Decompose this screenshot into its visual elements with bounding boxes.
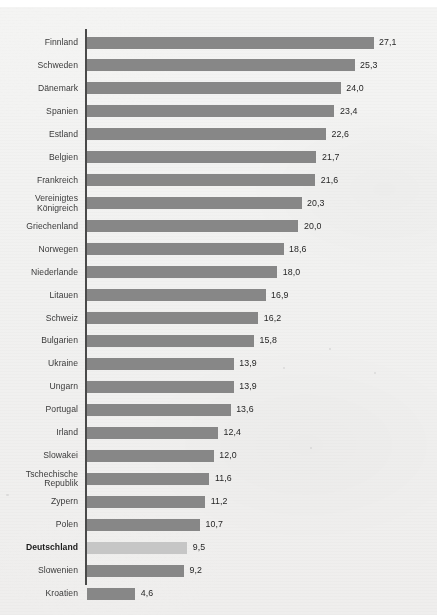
category-label: Slowakei: [0, 451, 78, 461]
category-label-line: Griechenland: [0, 222, 78, 232]
bar-value-label: 12,0: [219, 451, 237, 461]
category-label: Schweden: [0, 61, 78, 71]
bar: [87, 450, 214, 462]
category-label: Irland: [0, 428, 78, 438]
bar: [87, 59, 355, 71]
bar-value-label: 15,8: [259, 336, 277, 346]
bar-value-label: 13,6: [236, 405, 254, 415]
category-label: Litauen: [0, 291, 78, 301]
bar: [87, 588, 136, 600]
category-label-line: Zypern: [0, 497, 78, 507]
category-label-line: Deutschland: [0, 543, 78, 553]
category-label: Deutschland: [0, 543, 78, 553]
category-label: TschechischeRepublik: [0, 470, 78, 489]
category-label: Bulgarien: [0, 336, 78, 346]
bar: [87, 37, 374, 49]
bar-value-label: 21,7: [322, 153, 340, 163]
category-label-line: Litauen: [0, 291, 78, 301]
category-label-line: Ungarn: [0, 382, 78, 392]
bar-value-label: 20,0: [304, 222, 322, 232]
bar-value-label: 16,9: [271, 291, 289, 301]
category-label-line: Polen: [0, 520, 78, 530]
bar-value-label: 25,3: [360, 61, 378, 71]
bar: [87, 220, 299, 232]
scan-speck: [6, 494, 9, 496]
category-label-line: Portugal: [0, 405, 78, 415]
category-label: Schweiz: [0, 314, 78, 324]
chart-row: Schweiz16,2: [0, 311, 437, 334]
chart-row: Ungarn13,9: [0, 379, 437, 402]
bar: [87, 404, 231, 416]
bar-value-label: 12,4: [223, 428, 241, 438]
category-label: Portugal: [0, 405, 78, 415]
bar-chart-plot-area: Finnland27,1Schweden25,3Dänemark24,0Span…: [0, 7, 437, 615]
category-label-line: Ukraine: [0, 359, 78, 369]
bar-value-label: 4,6: [141, 589, 154, 599]
category-label: Kroatien: [0, 589, 78, 599]
category-label: Griechenland: [0, 222, 78, 232]
category-label: Dänemark: [0, 84, 78, 94]
category-label: Estland: [0, 130, 78, 140]
bar-value-label: 16,2: [264, 314, 282, 324]
chart-row: Polen10,7: [0, 517, 437, 540]
chart-row: Slowenien9,2: [0, 563, 437, 586]
category-label-line: Dänemark: [0, 84, 78, 94]
bar-value-label: 11,2: [211, 497, 228, 507]
chart-row: Slowakei12,0: [0, 448, 437, 471]
category-label: Belgien: [0, 153, 78, 163]
bar: [87, 358, 234, 370]
chart-row: Deutschland9,5: [0, 540, 437, 563]
bar: [87, 243, 284, 255]
category-label-line: Finnland: [0, 38, 78, 48]
chart-row: Finnland27,1: [0, 35, 437, 58]
chart-row: Bulgarien15,8: [0, 333, 437, 356]
category-label: Ungarn: [0, 382, 78, 392]
category-label-line: Irland: [0, 428, 78, 438]
bar-value-label: 18,0: [283, 268, 301, 278]
chart-row: Kroatien4,6: [0, 586, 437, 609]
bar-value-label: 20,3: [307, 199, 325, 209]
bar: [87, 312, 259, 324]
category-label-line: Norwegen: [0, 245, 78, 255]
chart-row: Spanien23,4: [0, 104, 437, 127]
bar-value-label: 13,9: [239, 382, 257, 392]
bar: [87, 427, 218, 439]
chart-row: Dänemark24,0: [0, 81, 437, 104]
chart-row: Estland22,6: [0, 127, 437, 150]
bar-value-label: 27,1: [379, 38, 397, 48]
bar-value-label: 18,6: [289, 245, 307, 255]
category-label-line: Spanien: [0, 107, 78, 117]
bar: [87, 174, 316, 186]
bar: [87, 266, 278, 278]
bar-value-label: 23,4: [340, 107, 358, 117]
category-label-line: Republik: [0, 479, 78, 489]
bar-value-label: 9,5: [193, 543, 206, 553]
category-label-line: Kroatien: [0, 589, 78, 599]
category-label: Polen: [0, 520, 78, 530]
category-label-line: Belgien: [0, 153, 78, 163]
category-label-line: Frankreich: [0, 176, 78, 186]
chart-row: Irland12,4: [0, 425, 437, 448]
bar-value-label: 22,6: [331, 130, 349, 140]
scan-speck: [310, 447, 312, 449]
chart-row: Norwegen18,6: [0, 242, 437, 265]
bar: [87, 151, 317, 163]
chart-row: TschechischeRepublik11,6: [0, 471, 437, 494]
bar: [87, 381, 234, 393]
chart-row: Niederlande18,0: [0, 265, 437, 288]
chart-row: Portugal13,6: [0, 402, 437, 425]
bar: [87, 473, 210, 485]
category-label: Niederlande: [0, 268, 78, 278]
chart-row: Litauen16,9: [0, 288, 437, 311]
scan-speck: [329, 348, 331, 350]
bar: [87, 496, 206, 508]
bar-value-label: 21,6: [321, 176, 339, 186]
category-label-line: Slowenien: [0, 566, 78, 576]
chart-row: Ukraine13,9: [0, 356, 437, 379]
chart-row: Griechenland20,0: [0, 219, 437, 242]
category-label-line: Slowakei: [0, 451, 78, 461]
chart-card: Finnland27,1Schweden25,3Dänemark24,0Span…: [0, 7, 437, 615]
bar: [87, 542, 188, 554]
bar: [87, 565, 184, 577]
chart-row: VereinigtesKönigreich20,3: [0, 196, 437, 219]
